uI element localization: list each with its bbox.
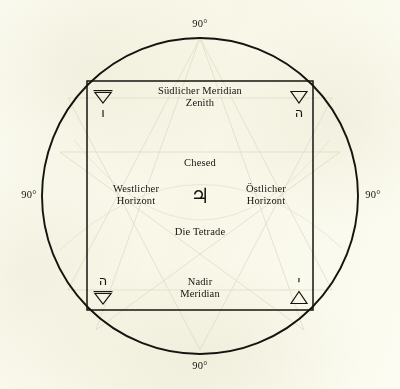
angle-label-right: 90°: [356, 189, 390, 201]
hebrew-letter-heh-final: ה: [99, 273, 108, 288]
southern-meridian-line1: Südlicher Meridian: [158, 85, 242, 96]
angle-label-bottom: 90°: [0, 360, 400, 372]
corner-top-left: ו: [92, 89, 114, 120]
hebrew-letter-heh: ה: [295, 105, 304, 120]
angle-label-top: 90°: [0, 18, 400, 30]
earth-triangle-icon: [92, 290, 114, 305]
sephirah-chesed-text: Chesed: [184, 157, 216, 168]
angle-label-left: 90°: [12, 189, 46, 201]
corner-bottom-right: י: [288, 272, 310, 305]
zenith-line2: Zenith: [186, 97, 214, 108]
corner-bottom-left: ה: [92, 272, 114, 305]
angle-label-left-text: 90°: [21, 189, 36, 200]
fire-triangle-icon: [288, 290, 310, 305]
angle-label-right-text: 90°: [365, 189, 380, 200]
southern-meridian-label: Südlicher Meridian Zenith: [100, 85, 300, 110]
sephirah-label: Chesed: [140, 157, 260, 169]
nadir-meridian-label: Nadir Meridian: [140, 276, 260, 301]
tetrad-caption-text: Die Tetrade: [175, 226, 226, 237]
jupiter-symbol: ♃: [140, 186, 260, 207]
hebrew-letter-vav: ו: [101, 105, 105, 120]
corner-top-right: ה: [288, 89, 310, 120]
earth-triangle-icon: [92, 89, 114, 104]
angle-label-top-text: 90°: [192, 18, 207, 29]
nadir-line1: Nadir: [188, 276, 213, 287]
figure-page: 90° 90° 90° 90° Südlicher Meridian Zenit…: [0, 0, 400, 389]
water-triangle-icon: [288, 89, 310, 104]
jupiter-glyph: ♃: [191, 184, 210, 208]
hebrew-letter-yod: י: [298, 273, 301, 288]
nadir-meridian-line2: Meridian: [180, 288, 220, 299]
tetrad-caption: Die Tetrade: [140, 226, 260, 238]
angle-label-bottom-text: 90°: [192, 360, 207, 371]
